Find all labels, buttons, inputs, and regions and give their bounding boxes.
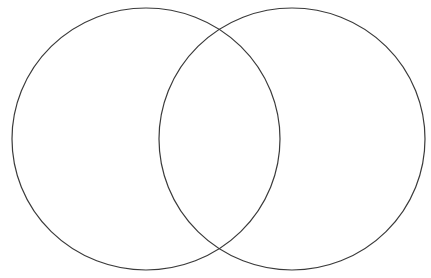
right-circle — [159, 8, 425, 270]
left-circle — [12, 8, 280, 270]
venn-diagram — [0, 0, 431, 278]
venn-diagram-svg — [0, 0, 431, 278]
